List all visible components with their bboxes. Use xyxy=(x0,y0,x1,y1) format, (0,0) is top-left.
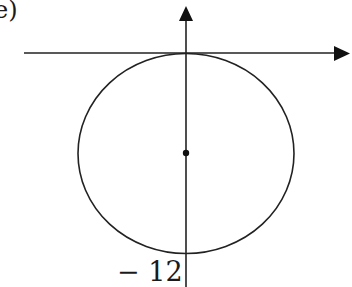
tick-label-minus-12: − 12 xyxy=(117,256,183,287)
center-point xyxy=(183,150,189,156)
part-label: e) xyxy=(0,0,18,24)
x-axis-arrow-icon xyxy=(334,46,350,61)
diagram: e) − 12 xyxy=(0,0,352,287)
diagram-canvas: e) − 12 xyxy=(0,0,352,287)
y-axis-arrow-icon xyxy=(179,6,193,21)
